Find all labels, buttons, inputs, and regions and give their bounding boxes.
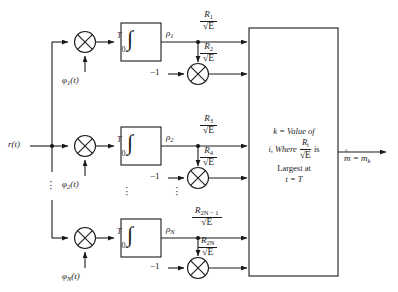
branch-2-group [50, 127, 247, 189]
block-diagram-figure: r(t) ∫T0 ∫T0 ∫T0 φ1(t) φ2(t) φN(t) ρ1 ρ2… [0, 0, 398, 292]
integrator-2: ∫T0 [127, 128, 141, 151]
output-label-r2n-1: R2N − 1 √E [192, 206, 222, 228]
output-label: m = mk [344, 154, 370, 164]
decision-line-3: Largest at [249, 163, 339, 174]
decision-line-1: k = Value of [249, 126, 339, 137]
output-label-r4: R4 √E [200, 146, 217, 168]
decision-box-text: k = Value of i, Where Ri √E is Largest a… [249, 126, 339, 186]
basis-label-n: φN(t) [62, 272, 80, 282]
basis-label-2: φ2(t) [62, 180, 79, 190]
output-label-r1: R1 √E [200, 10, 217, 32]
output-label-r2: R2 √E [200, 42, 217, 64]
output-label-r3: R3 √E [200, 114, 217, 136]
gain-label-2: −1 [150, 172, 160, 181]
rho-label-2: ρ2 [166, 133, 174, 143]
gain-label-1: −1 [150, 68, 160, 77]
basis-label-1: φ1(t) [62, 76, 79, 86]
gain-label-n: −1 [150, 262, 160, 271]
decision-ratio: Ri √E [300, 138, 311, 160]
branch-feed-lines [52, 42, 68, 238]
rho-label-n: ρN [166, 225, 175, 235]
ellipsis-integrators: ··· [125, 186, 129, 197]
rho-label-1: ρ1 [166, 29, 174, 39]
decision-line-2: i, Where Ri √E is [249, 138, 339, 160]
output-label-r2n: R2N √E [198, 236, 217, 258]
ellipsis-multipliers: ··· [175, 186, 179, 197]
branch-1-group [75, 23, 248, 85]
decision-line-4: t = T [249, 174, 339, 185]
integrator-1: ∫T0 [127, 24, 141, 47]
integrator-n: ∫T0 [127, 220, 141, 243]
ellipsis-bus: ··· [49, 180, 53, 191]
input-label: r(t) [8, 140, 20, 149]
